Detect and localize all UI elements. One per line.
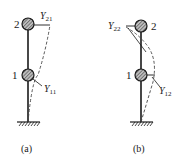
mass-node-2-b	[135, 20, 147, 32]
leader-y11	[33, 79, 42, 86]
fixed-support-a	[17, 122, 40, 126]
mass-node-1-a	[22, 69, 34, 81]
mode-shape-diagram: 2 1 Y21 Y11 (a) 2 1 Y22	[0, 0, 181, 165]
node-2-label-a: 2	[14, 18, 20, 30]
figure-b: 2 1 Y22 Y12 (b)	[108, 20, 172, 155]
mass-node-2-a	[22, 18, 34, 30]
node-1-label-a: 1	[12, 69, 18, 81]
fixed-support-b	[130, 122, 153, 126]
mode-label-y12: Y12	[159, 85, 172, 98]
node-1-label-b: 1	[126, 69, 132, 81]
mode-label-y21: Y21	[40, 10, 53, 23]
caption-a: (a)	[21, 143, 32, 155]
mode-label-y11: Y11	[44, 83, 57, 96]
mode-label-y22: Y22	[108, 20, 121, 33]
node-2-label-b: 2	[151, 20, 157, 32]
caption-b: (b)	[133, 143, 145, 155]
figure-a: 2 1 Y21 Y11 (a)	[12, 10, 57, 155]
mass-node-1-b	[135, 69, 147, 81]
